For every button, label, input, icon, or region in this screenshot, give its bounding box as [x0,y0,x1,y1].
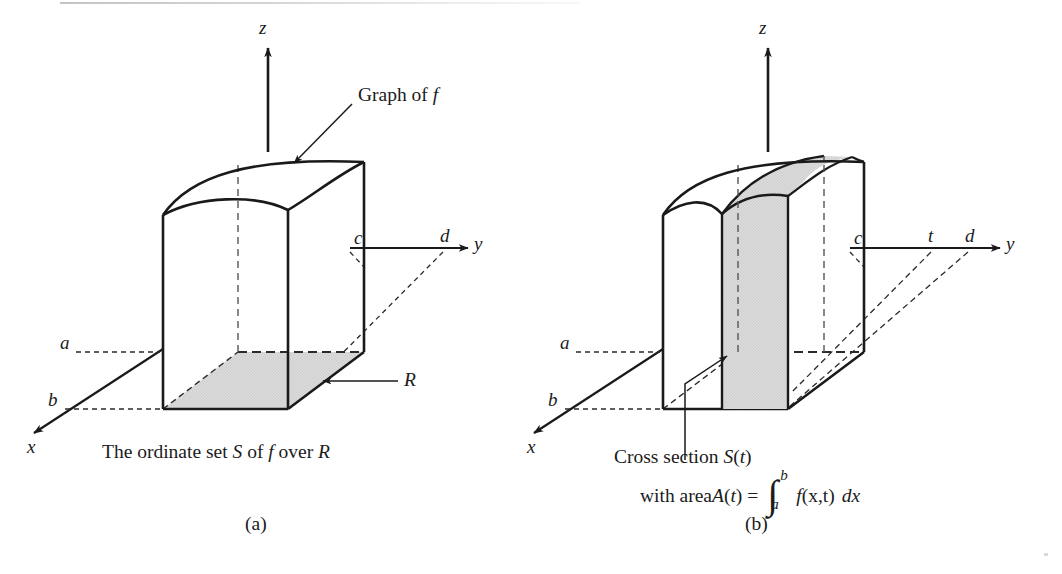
integrand-differential: dx [842,486,860,506]
panel-b-cross-section-shading [722,195,788,409]
panel-b-cross-section-line2: with area A(t) = ∫ b a f (x,t) dx [640,480,860,511]
panel-a-dash-c [350,252,364,267]
panel-b-base-right-edge [788,352,864,409]
panel-b-tick-a-label: a [560,333,570,352]
integrand-arguments: (x,t) [802,486,835,506]
diagram-svg [0,0,1062,574]
panel-b-y-axis-label: y [1006,234,1014,253]
panel-b-z-axis-label: z [759,18,766,37]
panel-a-x-axis-label: x [27,437,35,456]
panel-b-graphics [534,48,1000,460]
panel-a-z-axis-label: z [259,18,266,37]
panel-a-right-top-curve [288,162,364,210]
integral-lower-limit: a [771,497,779,512]
panel-b-tick-c-label: c [854,228,862,247]
panel-a-tick-d-label: d [440,226,450,245]
integral-expression: ∫ b a f (x,t) dx [767,480,860,511]
panel-a-tick-b-label: b [48,390,58,409]
panel-a-back-ridge-curve [163,161,364,215]
panel-b-x-axis-label: x [527,437,535,456]
panel-b-caption: (b) [745,514,768,534]
panel-a-y-axis-label: y [474,234,482,253]
panel-b-tick-b-label: b [548,390,558,409]
panel-a-graph-of-f-label: Graph of f [358,85,438,105]
panel-a-tick-c-label: c [354,228,362,247]
figure-canvas: z y x a b c d Graph of f R The ordinate … [0,0,1062,574]
panel-a-graphics [34,48,468,433]
panel-b-dash-d [789,252,968,407]
panel-a-graph-leader [294,104,352,163]
panel-a-front-profile-curve [163,199,288,215]
integral-upper-limit: b [780,468,788,483]
panel-a-region-R-label: R [404,370,416,390]
panel-b-cross-section-line1: Cross section S(t) [614,447,752,467]
panel-b-tick-t-label: t [928,226,933,245]
panel-b-tick-d-label: d [965,226,975,245]
panel-b-dash-c [850,252,864,267]
panel-a-description: The ordinate set S of f over R [102,442,330,462]
panel-a-tick-a-label: a [60,333,70,352]
panel-a-caption: (a) [245,514,267,534]
panel-b-dash-t [790,252,931,394]
